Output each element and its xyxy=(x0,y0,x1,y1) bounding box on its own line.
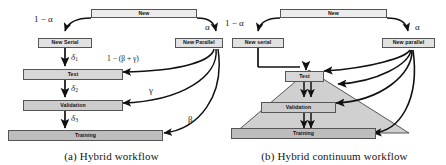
node-training-label: Training xyxy=(75,133,96,138)
node-validation-label: Validation xyxy=(60,103,86,108)
arrow-new-parallel-to-test xyxy=(324,50,410,71)
node-new-serial-label: New Serial xyxy=(51,40,78,45)
arrow-new-to-new-serial xyxy=(258,18,280,31)
node-new-label: New xyxy=(139,11,150,16)
figure-container: New New Serial New Parallel Test Validat… xyxy=(0,0,446,165)
label-split-serial: 1 − α xyxy=(34,14,53,24)
panel-hybrid-continuum-workflow: New New serial New parallel Test Validat… xyxy=(223,0,446,165)
node-test-label: Test xyxy=(299,74,310,79)
label-to-test: 1 − (β + γ) xyxy=(107,54,139,63)
node-new-serial[interactable]: New serial xyxy=(232,38,284,48)
node-test[interactable]: Test xyxy=(285,71,324,82)
arrow-new-parallel-to-midpoint xyxy=(338,50,411,84)
node-new[interactable]: New xyxy=(91,9,197,18)
node-new-serial-label: New serial xyxy=(245,40,272,45)
node-validation[interactable]: Validation xyxy=(23,100,123,111)
node-training-label: Training xyxy=(293,131,314,136)
node-validation[interactable]: Validation xyxy=(261,102,336,113)
panel-hybrid-workflow: New New Serial New Parallel Test Validat… xyxy=(0,0,223,165)
node-new[interactable]: New xyxy=(280,9,387,18)
label-split-parallel: α xyxy=(205,22,210,32)
arrow-new-to-new-parallel xyxy=(387,18,408,31)
node-test[interactable]: Test xyxy=(23,69,123,80)
label-delta3: δ3 xyxy=(71,113,78,123)
label-delta2: δ2 xyxy=(71,83,78,93)
label-split-serial: 1 − α xyxy=(225,18,244,28)
panel-b-arrows xyxy=(223,0,446,165)
node-new-parallel-label: New parallel xyxy=(393,40,424,45)
node-training[interactable]: Training xyxy=(231,128,376,139)
node-new-label: New xyxy=(328,11,339,16)
node-test-label: Test xyxy=(68,72,79,77)
node-new-parallel-label: New Parallel xyxy=(183,40,215,45)
node-new-parallel[interactable]: New parallel xyxy=(382,38,435,48)
label-to-training: β xyxy=(188,114,193,124)
label-delta1: δ1 xyxy=(71,52,78,62)
label-split-parallel: α xyxy=(415,22,420,32)
caption-panel-b: (b) Hybrid continuum workflow xyxy=(223,150,446,162)
node-new-serial[interactable]: New Serial xyxy=(38,38,92,48)
node-training[interactable]: Training xyxy=(8,130,163,141)
node-new-parallel[interactable]: New Parallel xyxy=(175,38,223,48)
node-validation-label: Validation xyxy=(286,105,312,110)
caption-panel-a: (a) Hybrid workflow xyxy=(0,150,223,162)
arrow-new-to-new-serial xyxy=(65,18,91,31)
label-to-validation: γ xyxy=(149,85,153,95)
